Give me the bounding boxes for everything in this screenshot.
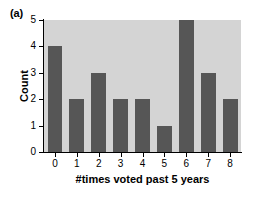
- y-axis-title: Count: [16, 20, 32, 152]
- y-axis-tick: [39, 152, 43, 153]
- bar-slot: [44, 20, 66, 152]
- x-axis-tick-label: 3: [109, 159, 133, 169]
- x-axis-tick-label: 7: [196, 159, 220, 169]
- bar-slot: [110, 20, 132, 152]
- x-axis-tick: [164, 153, 165, 157]
- y-axis-line: [43, 19, 44, 153]
- x-axis-tick-label: 5: [152, 159, 176, 169]
- bar: [91, 73, 106, 152]
- bar-slot: [153, 20, 175, 152]
- bar-slot: [219, 20, 241, 152]
- bar: [69, 99, 84, 152]
- bar: [135, 99, 150, 152]
- bar-slot: [175, 20, 197, 152]
- figure-panel-a: (a) 012345 012345678 Count #times voted …: [0, 0, 258, 197]
- plot-area: [44, 20, 241, 152]
- bar: [223, 99, 238, 152]
- x-axis-tick: [143, 153, 144, 157]
- bar: [48, 46, 63, 152]
- x-axis-tick-label: 0: [43, 159, 67, 169]
- x-axis-tick-label: 6: [174, 159, 198, 169]
- x-axis-tick: [77, 153, 78, 157]
- x-axis-title: #times voted past 5 years: [44, 173, 241, 185]
- x-axis-tick-label: 1: [65, 159, 89, 169]
- x-axis-tick: [121, 153, 122, 157]
- y-axis-tick: [39, 99, 43, 100]
- x-axis-tick: [186, 153, 187, 157]
- bar: [179, 20, 194, 152]
- y-axis-tick: [39, 46, 43, 47]
- bar-slot: [132, 20, 154, 152]
- x-axis-tick: [208, 153, 209, 157]
- x-axis-tick-label: 8: [218, 159, 242, 169]
- x-axis-tick: [230, 153, 231, 157]
- bar-slot: [66, 20, 88, 152]
- bar: [201, 73, 216, 152]
- y-axis-tick: [39, 126, 43, 127]
- bar-slot: [197, 20, 219, 152]
- bar-series: [44, 20, 241, 152]
- bar: [157, 126, 172, 152]
- bar: [113, 99, 128, 152]
- y-axis-tick: [39, 73, 43, 74]
- x-axis-tick-label: 4: [131, 159, 155, 169]
- x-axis-tick: [99, 153, 100, 157]
- x-axis-tick: [55, 153, 56, 157]
- bar-slot: [88, 20, 110, 152]
- y-axis-tick: [39, 20, 43, 21]
- x-axis-tick-label: 2: [87, 159, 111, 169]
